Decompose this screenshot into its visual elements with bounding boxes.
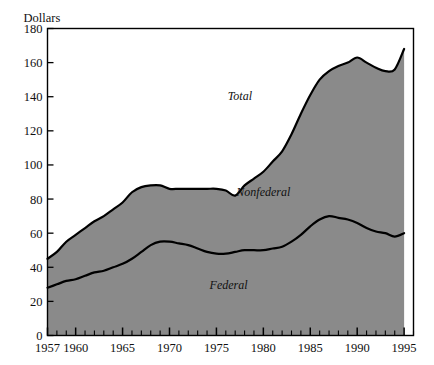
area-chart: 0204060801001201401601801957196019651970… [0,0,434,365]
x-tick-label: 1957 [35,341,60,355]
y-tick-label: 120 [24,124,43,138]
y-tick-label: 100 [24,158,43,172]
y-tick-label: 20 [30,295,43,309]
y-tick-label: 140 [24,90,43,104]
x-tick-label: 1985 [298,341,323,355]
y-axis-unit-label: Dollars [24,11,61,25]
x-tick-label: 1980 [251,341,276,355]
x-tick-label: 1975 [204,341,229,355]
series-annotation-total: Total [228,89,253,103]
x-tick-label: 1960 [63,341,88,355]
x-tick-label: 1995 [392,341,417,355]
x-tick-label: 1965 [110,341,135,355]
y-tick-label: 40 [30,261,43,275]
y-tick-label: 60 [30,227,43,241]
x-tick-label: 1990 [345,341,370,355]
y-tick-label: 160 [24,56,43,70]
series-annotation-nonfederal: Nonfederal [235,185,291,199]
series-annotation-federal: Federal [209,278,249,292]
x-tick-label: 1970 [157,341,182,355]
y-tick-label: 80 [30,193,43,207]
chart-container: 0204060801001201401601801957196019651970… [0,0,434,365]
